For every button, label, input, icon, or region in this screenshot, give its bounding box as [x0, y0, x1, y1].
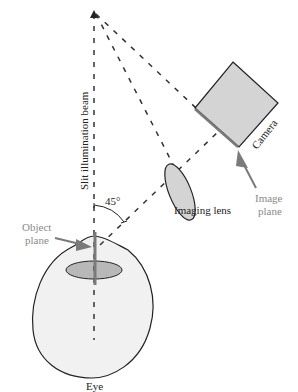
- object-plane-label-line1: Object: [22, 221, 51, 233]
- image-plane-label-line2: plane: [258, 205, 282, 217]
- slit-lamp-imaging-diagram: 45° Imaging lens Camera Image plane Obje…: [0, 0, 298, 392]
- image-plane-arrowhead-icon: [236, 150, 248, 168]
- object-plane-label-line2: plane: [25, 234, 49, 246]
- angle-label: 45°: [105, 195, 120, 207]
- eye-label: Eye: [86, 380, 103, 392]
- ray-apex-to-camera-top: [96, 14, 196, 108]
- eye-outline: [33, 236, 153, 378]
- imaging-lens-label: Imaging lens: [174, 204, 231, 216]
- ray-apex-to-lens: [96, 14, 180, 178]
- slit-beam-label: Slit illumination beam: [78, 91, 90, 190]
- image-plane-label-line1: Image: [255, 192, 283, 204]
- ray-eye-to-camera-45: [100, 130, 220, 245]
- eye: [33, 236, 153, 378]
- angle-arc: [94, 205, 124, 222]
